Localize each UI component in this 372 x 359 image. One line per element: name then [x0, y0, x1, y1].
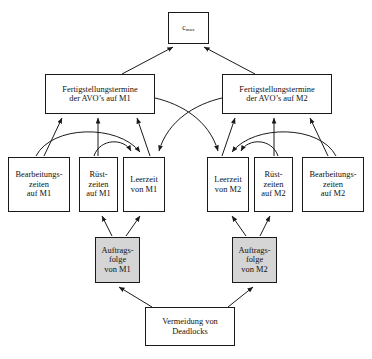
edge-fgt-m1-to-lz-m2 — [155, 98, 218, 151]
node-label-completion-times-m1: Fertigstellungstermine der AVO’s auf M1 — [46, 85, 154, 104]
node-label-idle-time-m1: Leerzeit von M1 — [124, 175, 164, 194]
node-processing-times-m1[interactable]: Bearbeitungs- zeiten auf M1 — [8, 157, 70, 212]
node-completion-times-m1[interactable]: Fertigstellungstermine der AVO’s auf M1 — [45, 74, 155, 114]
edge-af-m1-to-rz-m1 — [102, 216, 112, 236]
node-label-job-sequence-m2: Auftrags- folge von M2 — [233, 246, 276, 274]
node-idle-time-m1[interactable]: Leerzeit von M1 — [123, 157, 165, 212]
edge-rz-m1-to-lz-m1 — [94, 142, 131, 156]
node-label-job-sequence-m1: Auftrags- folge von M1 — [96, 246, 139, 274]
node-label-setup-times-m1: Rüst- zeiten auf M1 — [80, 170, 117, 198]
node-job-sequence-m1[interactable]: Auftrags- folge von M1 — [95, 237, 140, 283]
edge-fgt-m1-to-cmax — [122, 47, 173, 74]
node-label-processing-times-m2: Bearbeitungs- zeiten auf M2 — [303, 170, 363, 198]
node-completion-times-m2[interactable]: Fertigstellungstermine der AVO’s auf M2 — [222, 74, 332, 114]
edge-vd-to-af-m1 — [119, 287, 152, 307]
node-label-setup-times-m2: Rüst- zeiten auf M2 — [255, 170, 292, 198]
node-setup-times-m2[interactable]: Rüst- zeiten auf M2 — [254, 157, 293, 212]
node-job-sequence-m2[interactable]: Auftrags- folge von M2 — [232, 237, 277, 283]
edge-vd-to-af-m2 — [228, 287, 253, 307]
node-idle-time-m2[interactable]: Leerzeit von M2 — [207, 157, 249, 212]
node-label-deadlock-avoidance: Vermeidung von Deadlocks — [146, 317, 234, 336]
hierarchy-diagram: cmax Fertigstellungstermine der AVO’s au… — [0, 0, 372, 359]
edge-fgt-m2-to-cmax — [204, 47, 255, 74]
node-label-cmax: cmax — [169, 24, 208, 32]
node-deadlock-avoidance[interactable]: Vermeidung von Deadlocks — [145, 307, 235, 346]
edge-af-m2-to-lz-m2 — [232, 216, 246, 236]
edge-fgt-m2-to-lz-m1 — [159, 98, 222, 151]
edge-af-m2-to-rz-m2 — [260, 216, 270, 236]
edge-af-m1-to-lz-m1 — [126, 216, 140, 236]
node-processing-times-m2[interactable]: Bearbeitungs- zeiten auf M2 — [302, 157, 364, 212]
node-setup-times-m1[interactable]: Rüst- zeiten auf M1 — [79, 157, 118, 212]
node-label-completion-times-m2: Fertigstellungstermine der AVO’s auf M2 — [223, 85, 331, 104]
edge-rz-m2-to-lz-m2 — [241, 142, 278, 156]
node-objective-cmax[interactable]: cmax — [168, 12, 209, 44]
node-label-idle-time-m2: Leerzeit von M2 — [208, 175, 248, 194]
node-label-processing-times-m1: Bearbeitungs- zeiten auf M1 — [9, 170, 69, 198]
